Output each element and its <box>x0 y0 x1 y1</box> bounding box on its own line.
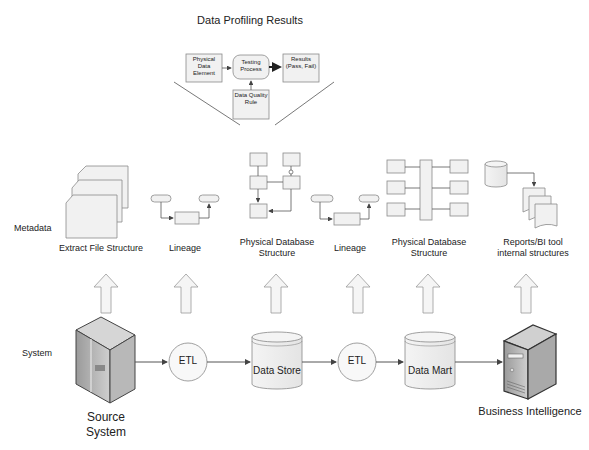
system-label-etl-1: ETL <box>169 355 207 368</box>
metadata-label-reports-bi: Reports/BI tool internal structures <box>488 237 578 260</box>
row-label-system: System <box>22 348 52 359</box>
row-label-metadata: Metadata <box>14 223 52 234</box>
system-label-data-mart: Data Mart <box>405 365 455 378</box>
cylinder-database-icon <box>252 332 302 389</box>
testing-process-label: Testing Process <box>233 59 269 73</box>
mainframe-server-icon <box>76 317 135 403</box>
data-quality-rule-label: Data Quality Rule <box>233 92 269 106</box>
er-diagram-icon <box>250 153 300 218</box>
results-label: Results (Pass, Fail) <box>283 56 319 70</box>
lineage-flow-icon <box>151 195 219 224</box>
up-arrows <box>94 274 538 313</box>
funnel-line-right <box>275 82 334 125</box>
metadata-label-lineage-1: Lineage <box>150 243 220 254</box>
system-label-data-store: Data Store <box>252 365 302 378</box>
database-reports-icon <box>485 161 557 228</box>
metadata-label-extract-file: Extract File Structure <box>56 243 146 254</box>
metadata-label-physical-db-1: Physical Database Structure <box>232 237 322 260</box>
metadata-label-lineage-2: Lineage <box>315 243 385 254</box>
lineage-flow-icon-2 <box>311 195 379 225</box>
star-schema-icon <box>387 160 468 220</box>
system-label-etl-2: ETL <box>338 355 376 368</box>
metadata-label-physical-db-2: Physical Database Structure <box>384 237 474 260</box>
tower-server-icon <box>504 325 556 399</box>
diagram-title: Data Profiling Results <box>195 14 305 28</box>
physical-data-element-label: Physical Data Element <box>186 56 222 78</box>
system-label-business-intelligence: Business Intelligence <box>470 405 589 419</box>
system-label-source: Source System <box>76 410 136 440</box>
funnel-line-left <box>174 82 240 125</box>
cylinder-database-icon-2 <box>405 332 455 389</box>
stacked-documents-icon <box>66 166 128 238</box>
